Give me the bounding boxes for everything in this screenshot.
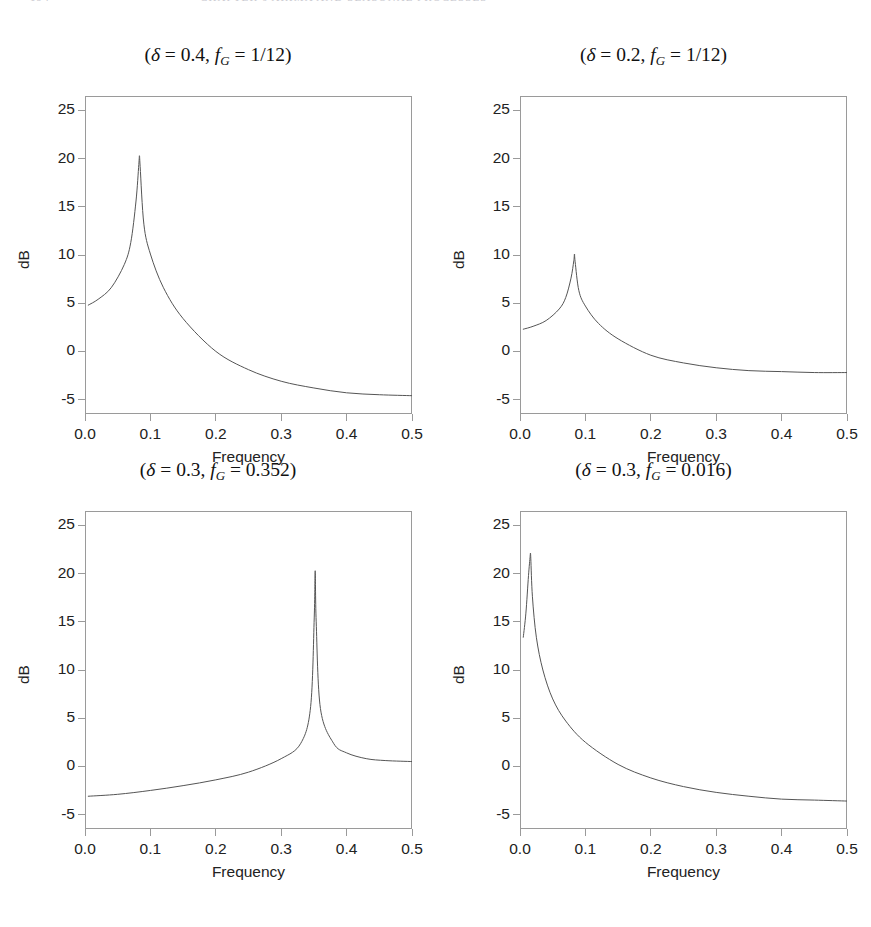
y-tick-4-0 bbox=[513, 525, 520, 526]
x-tick-label-1-4: 0.4 bbox=[317, 425, 377, 443]
x-tick-label-4-5: 0.5 bbox=[817, 840, 871, 858]
x-tick-label-2-4: 0.4 bbox=[752, 425, 812, 443]
y-tick-label-2-0: 25 bbox=[458, 100, 510, 118]
y-tick-label-2-4: 5 bbox=[458, 293, 510, 311]
y-tick-2-5 bbox=[513, 351, 520, 352]
y-tick-2-1 bbox=[513, 158, 520, 159]
y-tick-1-6 bbox=[78, 399, 85, 400]
y-tick-3-6 bbox=[78, 814, 85, 815]
y-tick-label-4-5: 0 bbox=[458, 756, 510, 774]
x-tick-label-3-2: 0.2 bbox=[186, 840, 246, 858]
x-tick-1-0 bbox=[85, 414, 86, 421]
x-tick-label-3-1: 0.1 bbox=[120, 840, 180, 858]
y-tick-3-1 bbox=[78, 573, 85, 574]
x-tick-label-1-5: 0.5 bbox=[382, 425, 442, 443]
y-tick-4-4 bbox=[513, 718, 520, 719]
y-tick-label-1-0: 25 bbox=[23, 100, 75, 118]
y-tick-1-1 bbox=[78, 158, 85, 159]
x-axis-label-1: Frequency bbox=[85, 448, 412, 466]
x-tick-3-0 bbox=[85, 829, 86, 836]
y-tick-label-3-2: 15 bbox=[23, 612, 75, 630]
figure-panel-grid: (δ = 0.4, fG = 1/12) (δ = 0.2, fG = 1/12… bbox=[0, 0, 871, 927]
y-tick-4-1 bbox=[513, 573, 520, 574]
y-tick-1-0 bbox=[78, 110, 85, 111]
x-tick-2-4 bbox=[781, 414, 782, 421]
y-axis-label-4: dB bbox=[450, 665, 468, 684]
y-tick-3-4 bbox=[78, 718, 85, 719]
y-tick-label-2-1: 20 bbox=[458, 149, 510, 167]
x-tick-label-1-3: 0.3 bbox=[251, 425, 311, 443]
y-tick-label-3-1: 20 bbox=[23, 564, 75, 582]
x-tick-label-2-2: 0.2 bbox=[621, 425, 681, 443]
x-tick-label-4-4: 0.4 bbox=[752, 840, 812, 858]
y-tick-label-4-6: -5 bbox=[458, 805, 510, 823]
x-tick-4-3 bbox=[716, 829, 717, 836]
x-tick-4-2 bbox=[650, 829, 651, 836]
x-tick-3-3 bbox=[281, 829, 282, 836]
x-tick-1-5 bbox=[412, 414, 413, 421]
x-tick-label-3-0: 0.0 bbox=[55, 840, 115, 858]
x-tick-1-4 bbox=[346, 414, 347, 421]
x-tick-3-5 bbox=[412, 829, 413, 836]
x-tick-2-2 bbox=[650, 414, 651, 421]
y-tick-4-2 bbox=[513, 621, 520, 622]
x-tick-label-3-5: 0.5 bbox=[382, 840, 442, 858]
x-tick-1-1 bbox=[150, 414, 151, 421]
y-tick-3-3 bbox=[78, 670, 85, 671]
y-tick-2-6 bbox=[513, 399, 520, 400]
y-tick-label-1-2: 15 bbox=[23, 197, 75, 215]
y-tick-label-4-1: 20 bbox=[458, 564, 510, 582]
x-tick-label-1-2: 0.2 bbox=[186, 425, 246, 443]
y-tick-4-5 bbox=[513, 766, 520, 767]
x-tick-label-4-0: 0.0 bbox=[490, 840, 550, 858]
x-tick-2-0 bbox=[520, 414, 521, 421]
panel-2-title: (δ = 0.2, fG = 1/12) bbox=[436, 44, 871, 69]
y-tick-1-4 bbox=[78, 303, 85, 304]
panel-1-fg: 1/12 bbox=[250, 44, 285, 65]
y-tick-3-2 bbox=[78, 621, 85, 622]
y-axis-label-3: dB bbox=[15, 665, 33, 684]
plot-frame-3 bbox=[85, 511, 412, 829]
x-tick-3-4 bbox=[346, 829, 347, 836]
x-tick-1-3 bbox=[281, 414, 282, 421]
y-tick-3-0 bbox=[78, 525, 85, 526]
x-tick-4-4 bbox=[781, 829, 782, 836]
y-tick-2-4 bbox=[513, 303, 520, 304]
x-tick-label-4-1: 0.1 bbox=[555, 840, 615, 858]
y-axis-label-1: dB bbox=[15, 250, 33, 269]
x-tick-label-1-1: 0.1 bbox=[120, 425, 180, 443]
x-tick-label-4-3: 0.3 bbox=[686, 840, 746, 858]
x-tick-4-5 bbox=[847, 829, 848, 836]
plot-frame-1 bbox=[85, 96, 412, 414]
y-tick-1-2 bbox=[78, 206, 85, 207]
x-axis-label-4: Frequency bbox=[520, 863, 847, 881]
y-tick-label-2-2: 15 bbox=[458, 197, 510, 215]
y-tick-label-1-6: -5 bbox=[23, 390, 75, 408]
x-tick-2-5 bbox=[847, 414, 848, 421]
y-tick-1-3 bbox=[78, 255, 85, 256]
y-tick-label-1-4: 5 bbox=[23, 293, 75, 311]
y-tick-2-2 bbox=[513, 206, 520, 207]
x-tick-label-4-2: 0.2 bbox=[621, 840, 681, 858]
x-tick-label-2-3: 0.3 bbox=[686, 425, 746, 443]
y-tick-label-4-2: 15 bbox=[458, 612, 510, 630]
x-tick-label-3-3: 0.3 bbox=[251, 840, 311, 858]
plot-frame-2 bbox=[520, 96, 847, 414]
x-tick-2-1 bbox=[585, 414, 586, 421]
y-tick-2-0 bbox=[513, 110, 520, 111]
panel-2-delta: 0.2 bbox=[616, 44, 640, 65]
panel-1-delta: 0.4 bbox=[181, 44, 205, 65]
y-tick-3-5 bbox=[78, 766, 85, 767]
y-tick-label-1-1: 20 bbox=[23, 149, 75, 167]
panel-1-title: (δ = 0.4, fG = 1/12) bbox=[0, 44, 436, 69]
y-tick-4-6 bbox=[513, 814, 520, 815]
y-tick-label-3-4: 5 bbox=[23, 708, 75, 726]
x-tick-label-2-5: 0.5 bbox=[817, 425, 871, 443]
x-tick-label-1-0: 0.0 bbox=[55, 425, 115, 443]
x-tick-4-1 bbox=[585, 829, 586, 836]
x-tick-label-3-4: 0.4 bbox=[317, 840, 377, 858]
x-tick-1-2 bbox=[215, 414, 216, 421]
x-tick-label-2-1: 0.1 bbox=[555, 425, 615, 443]
y-tick-label-2-5: 0 bbox=[458, 341, 510, 359]
plot-frame-4 bbox=[520, 511, 847, 829]
